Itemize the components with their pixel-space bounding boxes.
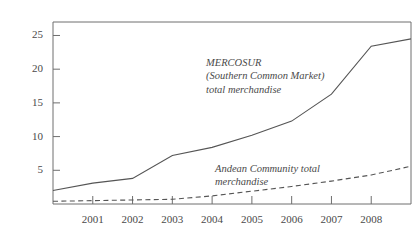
annotation-mercosur-line-3: total merchandise bbox=[206, 83, 324, 96]
annotation-mercosur-line-2: (Southern Common Market) bbox=[206, 69, 324, 82]
y-axis-tick-label: 15 bbox=[17, 97, 43, 108]
chart-container: 510152025 200120022003200420052006200720… bbox=[0, 0, 415, 236]
y-axis-ticks bbox=[53, 35, 60, 170]
annotation-andean: Andean Community total merchandise bbox=[215, 162, 320, 189]
chart-plot-area bbox=[0, 0, 415, 236]
y-axis-tick-label: 20 bbox=[17, 63, 43, 74]
x-axis-ticks bbox=[93, 196, 371, 204]
annotation-andean-line-1: Andean Community total bbox=[215, 162, 320, 175]
y-axis-tick-label: 10 bbox=[17, 131, 43, 142]
x-axis-tick-label: 2008 bbox=[348, 214, 394, 225]
annotation-mercosur-line-1: MERCOSUR bbox=[206, 56, 324, 69]
annotation-mercosur: MERCOSUR (Southern Common Market) total … bbox=[206, 56, 324, 96]
y-axis-tick-label: 25 bbox=[17, 29, 43, 40]
y-axis-tick-label: 5 bbox=[17, 164, 43, 175]
annotation-andean-line-2: merchandise bbox=[215, 175, 320, 188]
